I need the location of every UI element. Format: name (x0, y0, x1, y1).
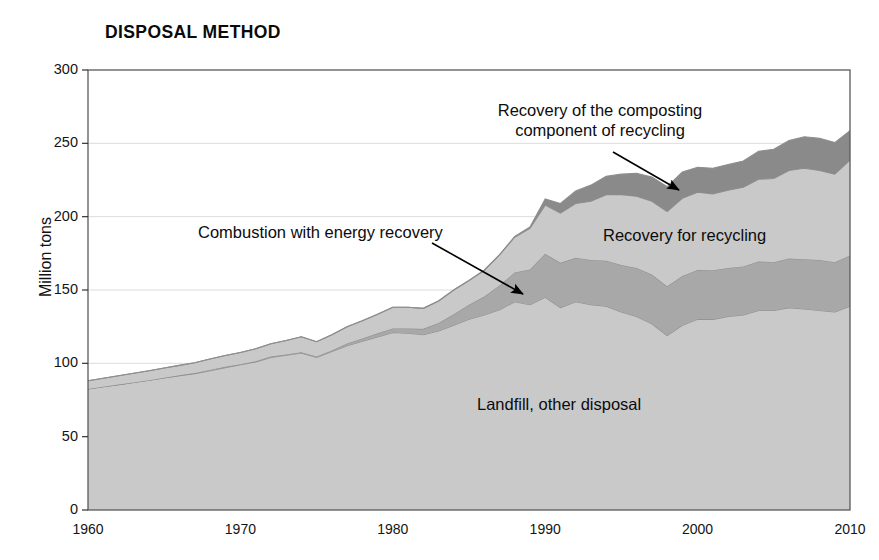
y-tick-label: 250 (54, 135, 78, 150)
area-band-0 (88, 297, 850, 510)
disposal-method-chart: DISPOSAL METHOD Million tons 05010015020… (0, 0, 879, 560)
combustion-annotation-line1: Combustion with energy recovery (198, 222, 443, 242)
x-tick-label: 1990 (515, 522, 575, 536)
y-tick-label: 50 (62, 429, 78, 444)
landfill-label: Landfill, other disposal (477, 395, 641, 414)
y-tick-label: 150 (54, 282, 78, 297)
y-tick-label: 200 (54, 209, 78, 224)
axis-tick-marks (82, 70, 88, 510)
y-tick-label: 300 (54, 62, 78, 77)
chart-title: DISPOSAL METHOD (105, 22, 281, 43)
x-tick-label: 1960 (58, 522, 118, 536)
y-tick-label: 0 (70, 502, 78, 517)
composting-annotation-line1: Recovery of the composting (455, 100, 745, 120)
x-tick-label: 2000 (668, 522, 728, 536)
y-tick-label: 100 (54, 355, 78, 370)
x-tick-label: 1980 (363, 522, 423, 536)
stacked-area-series (88, 131, 850, 510)
x-tick-label: 2010 (820, 522, 879, 536)
x-tick-label: 1970 (210, 522, 270, 536)
recycling-label: Recovery for recycling (603, 226, 766, 245)
y-axis-title: Million tons (37, 167, 55, 347)
composting-annotation-line2: component of recycling (455, 120, 745, 140)
plot-canvas (0, 0, 879, 560)
combustion-annotation: Combustion with energy recovery (198, 222, 443, 242)
composting-annotation: Recovery of the compostingcomponent of r… (455, 100, 745, 140)
